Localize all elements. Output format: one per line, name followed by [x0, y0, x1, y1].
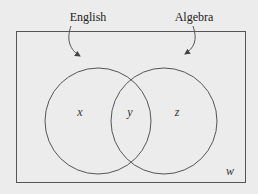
algebra-arrow: [185, 26, 195, 54]
venn-diagram: English Algebra x y z w: [0, 0, 258, 194]
english-label: English: [70, 10, 107, 24]
english-arrow: [69, 26, 80, 56]
region-y-label: y: [126, 105, 133, 119]
region-x-label: x: [76, 105, 83, 119]
english-circle: [45, 68, 151, 174]
universe-w-label: w: [226, 164, 234, 178]
region-z-label: z: [174, 105, 180, 119]
algebra-label: Algebra: [175, 10, 214, 24]
algebra-circle: [111, 68, 217, 174]
